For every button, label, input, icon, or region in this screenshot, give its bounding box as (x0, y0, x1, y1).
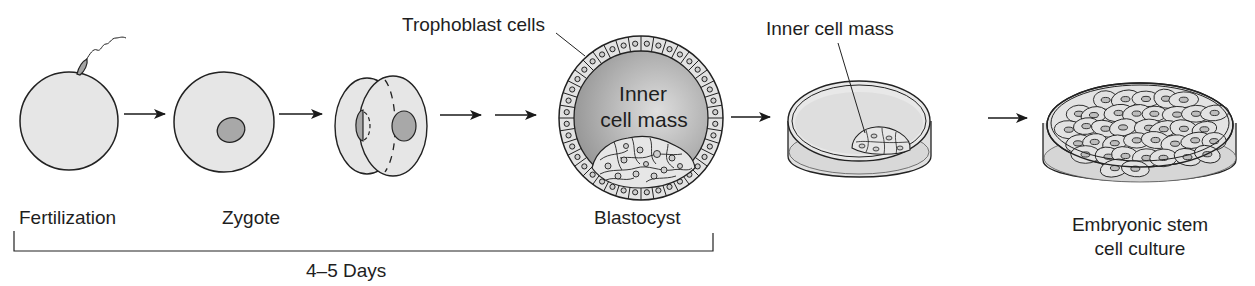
petri-dish-icon (788, 81, 931, 177)
sperm-tail-icon (86, 37, 126, 60)
callout-inner-cell-mass-line2: cell mass (592, 108, 696, 132)
label-zygote: Zygote (222, 207, 280, 229)
label-fertilization: Fertilization (19, 207, 116, 229)
zygote-cell-icon (174, 72, 274, 172)
label-embryonic-stem-line1: Embryonic stem (1060, 214, 1220, 236)
egg-cell-icon (20, 37, 126, 170)
stem-cell-culture-dish-icon (1043, 83, 1236, 182)
callout-trophoblast-cells: Trophoblast cells (402, 14, 545, 36)
timespan-bracket (14, 231, 713, 251)
label-blastocyst: Blastocyst (594, 207, 681, 229)
label-embryonic-stem-line2: cell culture (1060, 238, 1220, 260)
two-cell-embryo-icon (335, 76, 427, 176)
callout-inner-cell-mass-dish: Inner cell mass (766, 18, 894, 40)
callout-inner-cell-mass-line1: Inner (602, 82, 684, 106)
timespan-label: 4–5 Days (306, 260, 386, 282)
nucleus-icon (392, 111, 416, 141)
sperm-head-icon (77, 59, 87, 75)
trophoblast-leader-line (556, 33, 585, 56)
